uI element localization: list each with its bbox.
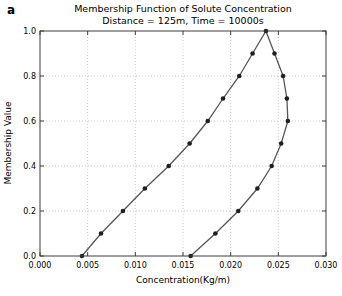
y-tick-label: 0.6 — [23, 117, 36, 126]
data-point — [279, 141, 284, 146]
membership-chart: a Membership Function of Solute Concentr… — [0, 0, 342, 296]
x-tick-label: 0.030 — [315, 261, 338, 270]
y-axis-label: Membership Value — [3, 101, 13, 185]
chart-subtitle: Distance = 125m, Time = 10000s — [102, 15, 263, 26]
y-tick-label: 0.0 — [23, 252, 36, 261]
data-point — [272, 51, 277, 56]
x-tick-label: 0.025 — [267, 261, 290, 270]
data-point — [237, 74, 242, 79]
x-axis-label: Concentration(Kg/m) — [136, 275, 230, 285]
y-tick-label: 0.8 — [23, 72, 36, 81]
data-point — [99, 231, 104, 236]
y-tick-label: 1.0 — [23, 27, 36, 36]
figure-panel: a Membership Function of Solute Concentr… — [0, 0, 342, 296]
x-tick-label: 0.005 — [76, 261, 99, 270]
x-tick-label: 0.020 — [219, 261, 242, 270]
data-point — [269, 164, 274, 169]
y-tick-label: 0.2 — [23, 207, 36, 216]
data-point — [285, 96, 290, 101]
data-point — [166, 164, 171, 169]
data-point — [213, 231, 218, 236]
membership-curve — [82, 31, 288, 256]
x-tick-labels: 0.0000.0050.0100.0150.0200.0250.030 — [29, 261, 338, 270]
data-point — [250, 51, 255, 56]
x-tick-label: 0.000 — [29, 261, 52, 270]
data-point — [236, 209, 241, 214]
data-point — [221, 96, 226, 101]
x-tick-label: 0.015 — [172, 261, 195, 270]
data-point — [121, 209, 126, 214]
x-tick-label: 0.010 — [124, 261, 147, 270]
y-tick-labels: 0.00.20.40.60.81.0 — [23, 27, 36, 261]
data-point — [205, 119, 210, 124]
data-point — [281, 74, 286, 79]
chart-title: Membership Function of Solute Concentrat… — [74, 3, 292, 14]
panel-label: a — [7, 3, 15, 17]
y-tick-label: 0.4 — [23, 162, 36, 171]
data-point — [143, 186, 148, 191]
data-point — [255, 186, 260, 191]
data-point — [286, 119, 291, 124]
data-point — [187, 141, 192, 146]
